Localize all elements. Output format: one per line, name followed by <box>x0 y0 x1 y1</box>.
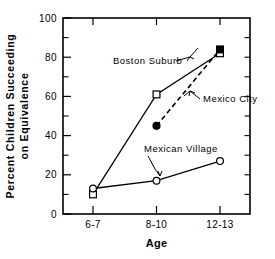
x-axis-title: Age <box>146 237 168 249</box>
data-point-village-8-10 <box>153 177 160 184</box>
leader-arrow-mexican-village <box>158 171 162 176</box>
x-tick-label-12-13: 12-13 <box>206 219 234 230</box>
annotation-boston-suburb: Boston Suburb <box>113 55 182 66</box>
x-axis-ticks <box>93 206 220 214</box>
x-tick-label-6-7: 6-7 <box>85 219 101 230</box>
y-axis-minor-ticks <box>63 38 69 195</box>
data-point-mexico-city-8-10 <box>153 122 160 129</box>
data-point-mexico-city-12-13 <box>217 46 224 53</box>
y-tick-label-60: 60 <box>45 91 57 102</box>
x-axis-top-ticks <box>93 18 220 25</box>
data-point-village-6-7 <box>90 185 97 192</box>
leader-arrow-mexico-city <box>189 91 195 96</box>
annotation-mexico-city: Mexico City <box>203 93 258 104</box>
y-tick-label-80: 80 <box>45 52 57 63</box>
y-axis-title-line2: on Equivalence <box>18 73 30 160</box>
y-axis-right-ticks <box>245 38 251 195</box>
data-point-village-12-13 <box>217 158 224 165</box>
y-axis-title-line1: Percent Children Succeeding <box>4 34 16 199</box>
x-tick-label-8-10: 8-10 <box>146 219 168 230</box>
annotation-mexican-village: Mexican Village <box>144 143 218 154</box>
y-tick-label-40: 40 <box>45 130 57 141</box>
data-point-boston-8-10 <box>153 91 160 98</box>
leader-line-mexican-village <box>148 156 160 176</box>
y-tick-label-100: 100 <box>39 13 57 24</box>
y-tick-label-0: 0 <box>51 209 57 220</box>
chart-figure: 0 20 40 60 80 100 6-7 8-10 12-13 Age Per… <box>0 0 275 259</box>
y-tick-label-20: 20 <box>45 169 57 180</box>
line-chart: 0 20 40 60 80 100 6-7 8-10 12-13 Age Per… <box>0 0 275 259</box>
